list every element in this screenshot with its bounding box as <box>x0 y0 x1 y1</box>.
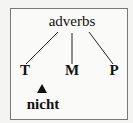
edge-adverbs-t <box>26 32 58 64</box>
edge-adverbs-p <box>89 32 113 64</box>
leaf-node-t: T <box>15 62 35 79</box>
leaf-node-p: P <box>104 62 124 79</box>
root-node-label: adverbs <box>42 13 102 30</box>
triangle-up-icon <box>37 84 47 93</box>
leaf-node-m: M <box>62 62 82 79</box>
negation-label: nicht <box>23 96 63 113</box>
